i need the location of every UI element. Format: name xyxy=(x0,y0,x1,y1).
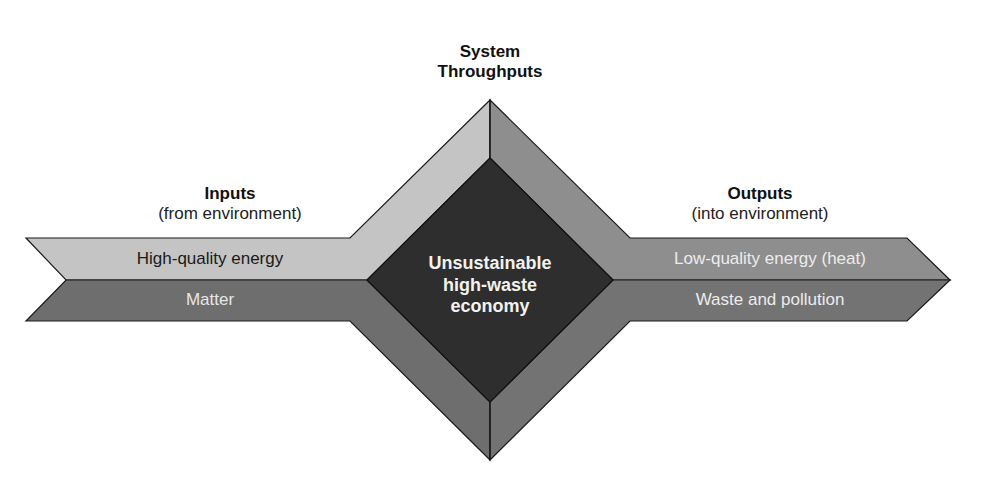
center-line-3: economy xyxy=(400,296,580,318)
center-line-2: high-waste xyxy=(400,275,580,297)
inputs-heading: Inputs xyxy=(120,184,340,204)
outputs-heading: Outputs xyxy=(640,184,880,204)
output-band-label-waste: Waste and pollution xyxy=(640,290,900,310)
inputs-subheading: (from environment) xyxy=(120,204,340,224)
center-economy-label: Unsustainable high-waste economy xyxy=(400,253,580,318)
input-band-label-energy: High-quality energy xyxy=(100,249,320,269)
input-band-label-matter: Matter xyxy=(100,290,320,310)
output-band-label-heat: Low-quality energy (heat) xyxy=(640,249,900,269)
center-line-1: Unsustainable xyxy=(400,253,580,275)
title-line-2: Throughputs xyxy=(390,62,590,82)
title-line-1: System xyxy=(390,42,590,62)
outputs-subheading: (into environment) xyxy=(640,204,880,224)
outputs-heading-group: Outputs (into environment) xyxy=(640,184,880,223)
inputs-heading-group: Inputs (from environment) xyxy=(120,184,340,223)
throughput-diagram: System Throughputs Inputs (from environm… xyxy=(0,0,982,481)
system-throughputs-title: System Throughputs xyxy=(390,42,590,81)
